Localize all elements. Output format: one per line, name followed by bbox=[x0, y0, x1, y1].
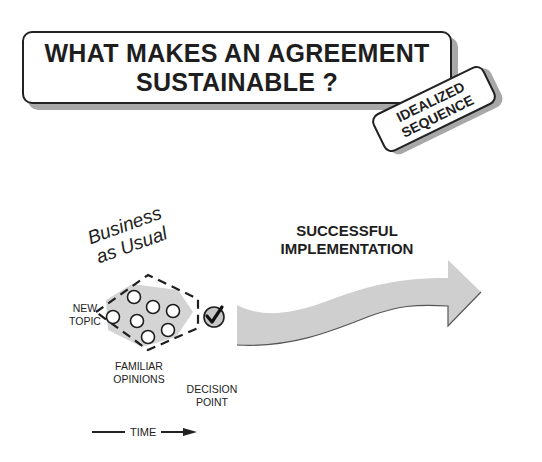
outcome-line-1: SUCCESSFUL bbox=[262, 222, 432, 240]
time-axis-line bbox=[92, 431, 125, 433]
circle-icon bbox=[128, 291, 141, 304]
circle-icon bbox=[147, 301, 160, 314]
circle-icon bbox=[167, 305, 180, 318]
outcome-line-2: IMPLEMENTATION bbox=[262, 240, 432, 258]
circle-icon bbox=[142, 331, 155, 344]
new-topic-line-2: TOPIC bbox=[58, 315, 112, 328]
decision-point-label: DECISION POINT bbox=[177, 383, 247, 409]
familiar-line-1: FAMILIAR bbox=[98, 360, 180, 373]
circle-icon bbox=[131, 315, 144, 328]
time-axis: TIME bbox=[92, 425, 197, 439]
checkmark-circle-icon bbox=[204, 307, 224, 327]
decision-line-2: POINT bbox=[177, 396, 247, 409]
successful-implementation-label: SUCCESSFUL IMPLEMENTATION bbox=[262, 222, 432, 258]
curved-arrow-icon bbox=[237, 260, 481, 345]
time-axis-line-2 bbox=[161, 431, 183, 433]
circle-icon bbox=[162, 324, 175, 337]
decision-line-1: DECISION bbox=[177, 383, 247, 396]
new-topic-line-1: NEW bbox=[58, 302, 112, 315]
familiar-opinions-label: FAMILIAR OPINIONS bbox=[98, 360, 180, 386]
new-topic-label: NEW TOPIC bbox=[58, 302, 112, 328]
time-label: TIME bbox=[130, 426, 156, 438]
familiar-line-2: OPINIONS bbox=[98, 373, 180, 386]
arrow-right-icon bbox=[183, 428, 197, 436]
